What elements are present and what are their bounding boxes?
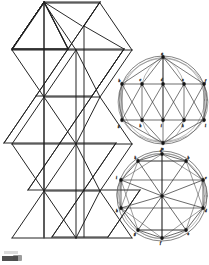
svg-text:l: l bbox=[205, 124, 206, 128]
svg-text:d: d bbox=[205, 209, 207, 213]
svg-text:a: a bbox=[160, 149, 162, 153]
svg-text:a: a bbox=[161, 52, 163, 56]
svg-text:i: i bbox=[161, 124, 162, 128]
scan-artifact-blob bbox=[13, 255, 22, 261]
figure-page: a b c d e f g h i k l m bbox=[0, 0, 209, 265]
svg-text:h: h bbox=[140, 124, 142, 128]
svg-text:g: g bbox=[134, 232, 136, 236]
svg-text:b: b bbox=[188, 156, 190, 160]
svg-text:d: d bbox=[161, 78, 163, 82]
svg-text:b: b bbox=[119, 79, 121, 83]
svg-text:g: g bbox=[118, 124, 120, 128]
scan-artifact-faint bbox=[4, 251, 18, 254]
geometric-figure-canvas: a b c d e f g h i k l m bbox=[0, 0, 209, 265]
svg-text:h: h bbox=[116, 209, 118, 213]
svg-text:i: i bbox=[116, 176, 117, 180]
page-background bbox=[0, 0, 209, 265]
